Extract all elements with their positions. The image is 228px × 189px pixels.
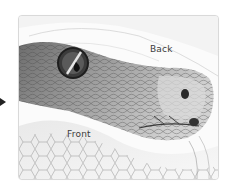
pointer-arrow-icon: [0, 91, 6, 99]
nostril-icon: [181, 89, 189, 99]
snake-head-illustration: [19, 16, 218, 179]
label-back: Back: [150, 44, 173, 54]
label-front: Front: [67, 129, 91, 139]
illustration-card: Back Front: [18, 15, 219, 180]
